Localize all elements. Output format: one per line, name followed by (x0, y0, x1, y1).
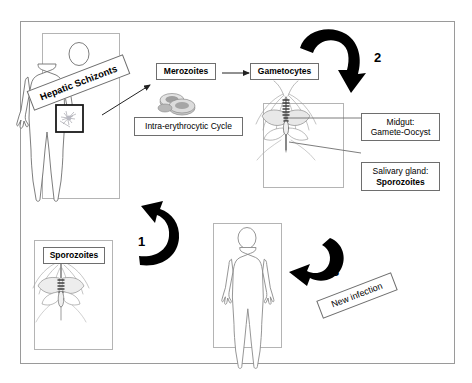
label-new-infection: New infection (316, 272, 397, 318)
label-sporozoites: Sporozoites (43, 247, 105, 264)
step-number-2: 2 (374, 50, 381, 65)
step-number-1: 1 (138, 234, 145, 249)
label-salivary-gland: Salivary gland: Sporozoites (361, 162, 440, 191)
panel-infected-human (42, 33, 120, 199)
panel-mosquito-midgut (263, 103, 344, 188)
label-intra-erythrocytic-cycle: Intra-erythrocytic Cycle (134, 117, 243, 136)
label-midgut: Midgut: Gamete-Oocyst (361, 113, 440, 141)
panel-new-human (213, 223, 282, 348)
step-number-3: 3 (332, 264, 339, 279)
label-gametocytes: Gametocytes (250, 63, 319, 80)
red-blood-cells-illustration (158, 94, 195, 116)
curved-arrow-2 (300, 29, 366, 93)
label-merozoites: Merozoites (156, 63, 216, 80)
diagram-frame: Hepatic Schizonts Merozoites Gametocytes… (20, 21, 455, 364)
